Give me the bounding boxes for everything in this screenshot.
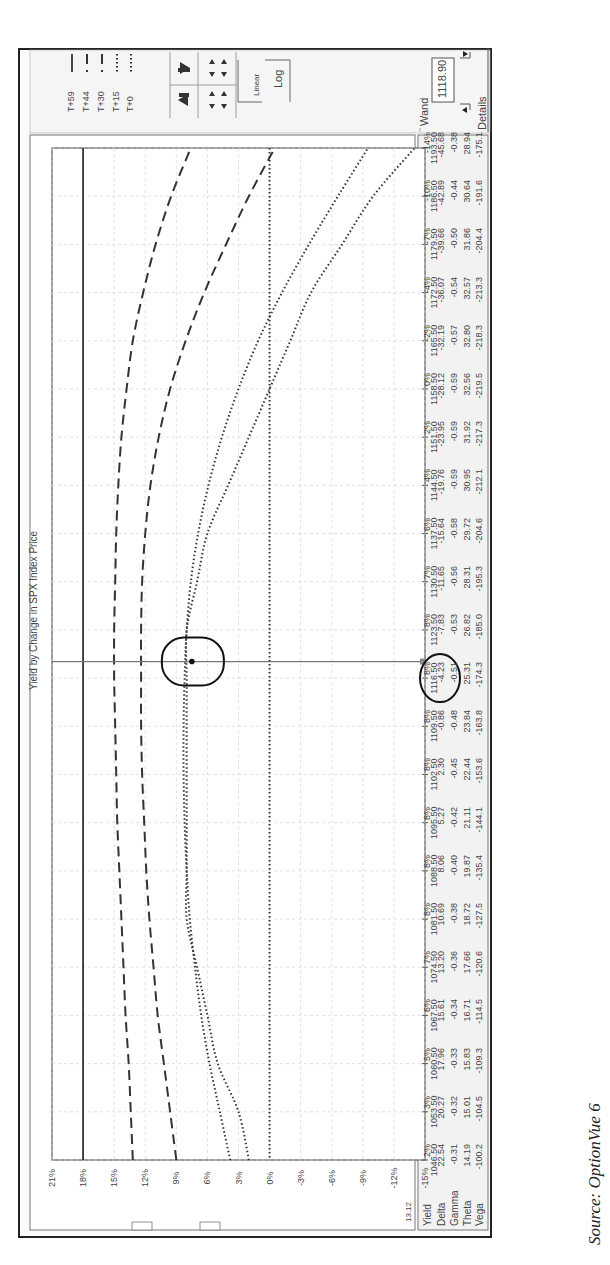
source-caption: Source: OptionVue 6 bbox=[585, 1103, 605, 1245]
table-cell: 15.83 bbox=[462, 1048, 472, 1078]
chart-title: Yield by Change in SPX Index Price bbox=[28, 531, 39, 690]
table-cell: 8% bbox=[422, 614, 432, 644]
table-cell: 32.56 bbox=[462, 373, 472, 403]
table-cell: -219.5 bbox=[474, 373, 484, 403]
table-cell: -0.34 bbox=[449, 999, 459, 1029]
table-cell: -19.76 bbox=[436, 469, 446, 499]
table-cell: 3% bbox=[422, 1096, 432, 1126]
table-cell: 29.72 bbox=[462, 518, 472, 548]
table-cell: 5% bbox=[422, 1048, 432, 1078]
table-cell: -0.44 bbox=[449, 180, 459, 210]
table-cell: -10% bbox=[422, 180, 432, 210]
table-cell: -217.3 bbox=[474, 421, 484, 451]
table-row-header: Gamma bbox=[449, 1190, 460, 1226]
table-cell: -4.23 bbox=[436, 662, 446, 692]
y-tick-label: 3% bbox=[234, 1171, 244, 1184]
table-cell: -135.4 bbox=[474, 855, 484, 885]
table-cell: -0.51 bbox=[449, 662, 459, 692]
table-cell: 20.27 bbox=[436, 1096, 446, 1126]
table-cell: 18.72 bbox=[462, 903, 472, 933]
table-cell: -163.8 bbox=[474, 710, 484, 740]
stage: 1046.501053.501060.501067.501074.501081.… bbox=[0, 0, 610, 1265]
table-cell: 6% bbox=[422, 518, 432, 548]
table-cell: -0.86 bbox=[436, 710, 446, 740]
wand-label: Wand bbox=[418, 96, 430, 128]
table-cell: -213.3 bbox=[474, 277, 484, 307]
table-cell: -23.95 bbox=[436, 421, 446, 451]
table-cell: 2% bbox=[422, 1144, 432, 1174]
table-row-header: Yield bbox=[422, 1204, 433, 1226]
scale-log-button[interactable]: Log bbox=[272, 70, 284, 88]
table-cell: -153.6 bbox=[474, 758, 484, 788]
table-cell: -0.53 bbox=[449, 614, 459, 644]
details-button[interactable]: Details bbox=[476, 96, 488, 130]
table-cell: 30.95 bbox=[462, 469, 472, 499]
wand-value[interactable]: 1118.90 bbox=[436, 60, 448, 98]
window-tab-stub bbox=[200, 1222, 220, 1230]
y-tick-label: 18% bbox=[78, 1169, 88, 1187]
table-cell: 7% bbox=[422, 566, 432, 596]
table-cell: 8% bbox=[422, 903, 432, 933]
table-cell: 28.94 bbox=[462, 132, 472, 162]
table-cell: -0.50 bbox=[449, 228, 459, 258]
table-cell: 8% bbox=[422, 758, 432, 788]
table-cell: 6% bbox=[422, 999, 432, 1029]
y-tick-label: 12% bbox=[140, 1169, 150, 1187]
scale-linear-button[interactable]: Linear bbox=[252, 74, 261, 96]
y-tick-label: 9% bbox=[171, 1171, 181, 1184]
legend-label: T+30 bbox=[96, 91, 106, 112]
table-cell: -14% bbox=[422, 132, 432, 162]
table-cell: 8% bbox=[422, 662, 432, 692]
table-cell: 30.64 bbox=[462, 180, 472, 210]
table-cell: -204.4 bbox=[474, 228, 484, 258]
table-cell: -0.38 bbox=[449, 132, 459, 162]
table-cell: -218.3 bbox=[474, 325, 484, 355]
table-cell: -195.3 bbox=[474, 566, 484, 596]
table-cell: -0.57 bbox=[449, 325, 459, 355]
table-cell: 10.69 bbox=[436, 903, 446, 933]
table-cell: -32.19 bbox=[436, 325, 446, 355]
table-cell: -0.42 bbox=[449, 807, 459, 837]
table-cell: 23.84 bbox=[462, 710, 472, 740]
table-cell: -109.3 bbox=[474, 1048, 484, 1078]
table-row-header: Vega bbox=[474, 1203, 485, 1226]
table-cell: 8% bbox=[422, 855, 432, 885]
table-row-header: Delta bbox=[436, 1203, 447, 1226]
table-cell: -15.64 bbox=[436, 518, 446, 548]
table-cell: -0.36 bbox=[449, 951, 459, 981]
table-cell: 2% bbox=[422, 421, 432, 451]
table-cell: 25.31 bbox=[462, 662, 472, 692]
table-cell: 7% bbox=[422, 951, 432, 981]
legend-label: T+44 bbox=[81, 91, 91, 112]
table-cell: -45.68 bbox=[436, 132, 446, 162]
current-point-marker bbox=[189, 659, 195, 665]
y-tick-label: -9% bbox=[358, 1170, 368, 1186]
table-cell: 8.06 bbox=[436, 855, 446, 885]
table-cell: -144.1 bbox=[474, 807, 484, 837]
corner-value: 13.12 bbox=[404, 1202, 413, 1222]
table-cell: -104.5 bbox=[474, 1096, 484, 1126]
table-cell: 0% bbox=[422, 373, 432, 403]
table-cell: -212.1 bbox=[474, 469, 484, 499]
y-tick-label: 6% bbox=[202, 1171, 212, 1184]
table-cell: 5.27 bbox=[436, 807, 446, 837]
table-cell: -0.40 bbox=[449, 855, 459, 885]
table-cell: -28.12 bbox=[436, 373, 446, 403]
table-cell: 13.20 bbox=[436, 951, 446, 981]
table-cell: -174.3 bbox=[474, 662, 484, 692]
legend-label: T+15 bbox=[111, 91, 121, 112]
table-cell: -7% bbox=[422, 228, 432, 258]
table-cell: -39.66 bbox=[436, 228, 446, 258]
table-cell: -100.2 bbox=[474, 1144, 484, 1174]
table-cell: 15.61 bbox=[436, 999, 446, 1029]
table-cell: -42.89 bbox=[436, 180, 446, 210]
table-cell: -0.59 bbox=[449, 469, 459, 499]
table-cell: 26.82 bbox=[462, 614, 472, 644]
table-cell: -0.59 bbox=[449, 421, 459, 451]
table-cell: -114.5 bbox=[474, 999, 484, 1029]
yield-chart: 1046.501053.501060.501067.501074.501081.… bbox=[0, 0, 610, 1265]
y-tick-label: 21% bbox=[47, 1169, 57, 1187]
table-row-header: Theta bbox=[462, 1200, 473, 1226]
table-cell: 31.92 bbox=[462, 421, 472, 451]
legend-label: T+0 bbox=[125, 96, 135, 112]
